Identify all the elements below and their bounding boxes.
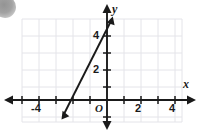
coordinate-graph: -4 2 4 4 2 O x y — [0, 0, 199, 131]
y-axis-arrow-up — [103, 4, 112, 13]
x-tick-label-4: 4 — [169, 103, 175, 114]
y-axis-label: y — [112, 3, 117, 15]
y-axis-arrow-down — [103, 121, 112, 130]
origin-label: O — [95, 103, 103, 114]
x-axis-arrow-right — [187, 96, 196, 105]
y-tick-label-4: 4 — [93, 30, 99, 41]
x-axis-label: x — [183, 78, 189, 90]
y-tick-label-2: 2 — [93, 64, 99, 75]
x-tick-label-neg4: -4 — [31, 103, 41, 114]
x-axis-arrow-left — [4, 96, 13, 105]
x-tick-label-2: 2 — [135, 103, 141, 114]
